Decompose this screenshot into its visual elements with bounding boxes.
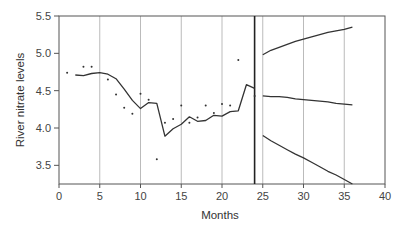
observed-point: [123, 107, 125, 109]
observed-point: [254, 95, 256, 97]
series-layer: [66, 27, 352, 184]
x-axis: 0510152025303540: [56, 184, 391, 202]
observed-point: [148, 99, 150, 101]
x-tick-label: 25: [257, 190, 269, 202]
observed-point: [156, 158, 158, 160]
observed-point: [229, 105, 231, 107]
forecast-lower-line: [263, 136, 353, 185]
observed-point: [237, 59, 239, 61]
x-tick-label: 20: [216, 190, 228, 202]
x-tick-label: 10: [134, 190, 146, 202]
observed-point: [180, 105, 182, 107]
observed-point: [131, 113, 133, 115]
observed-point: [188, 122, 190, 124]
observed-point: [115, 93, 117, 95]
observed-point: [82, 66, 84, 68]
observed-point: [91, 66, 93, 68]
nitrate-chart: 3.54.04.55.05.5 0510152025303540 Months …: [0, 0, 405, 229]
observed-point: [107, 78, 109, 80]
y-tick-label: 4.5: [36, 85, 51, 97]
observed-point: [164, 122, 166, 124]
x-tick-label: 0: [56, 190, 62, 202]
fitted-line: [75, 73, 254, 137]
observed-point: [221, 103, 223, 105]
forecast-upper-line: [263, 27, 353, 55]
observed-point: [213, 112, 215, 114]
x-tick-label: 30: [297, 190, 309, 202]
y-tick-label: 5.5: [36, 10, 51, 22]
observed-point: [205, 105, 207, 107]
y-axis-label: River nitrate levels: [14, 52, 26, 147]
x-tick-label: 15: [175, 190, 187, 202]
forecast-line: [263, 96, 353, 105]
y-tick-label: 5.0: [36, 47, 51, 59]
y-tick-label: 4.0: [36, 122, 51, 134]
x-tick-label: 40: [379, 190, 391, 202]
y-axis: 3.54.04.55.05.5: [36, 10, 59, 171]
observed-point: [66, 72, 68, 74]
y-tick-label: 3.5: [36, 159, 51, 171]
observed-point: [140, 93, 142, 95]
x-tick-label: 35: [338, 190, 350, 202]
observed-point: [197, 117, 199, 119]
x-axis-label: Months: [201, 209, 239, 221]
x-tick-label: 5: [97, 190, 103, 202]
observed-point: [172, 118, 174, 120]
